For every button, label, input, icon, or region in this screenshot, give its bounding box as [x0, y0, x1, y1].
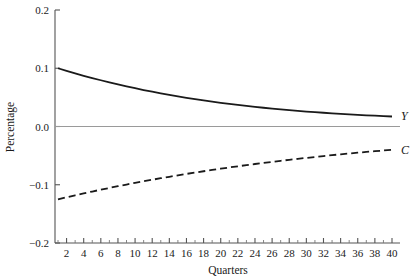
- x-tick-label: 22: [232, 247, 243, 259]
- x-tick-label: 26: [267, 247, 279, 259]
- x-tick-label: 16: [181, 247, 193, 259]
- x-tick-label: 4: [81, 247, 87, 259]
- series-group: [58, 68, 392, 199]
- y-tick-label: −0.2: [29, 237, 49, 249]
- x-tick-label: 30: [301, 247, 313, 259]
- x-tick-label: 40: [387, 247, 399, 259]
- x-axis: [55, 238, 400, 243]
- x-tick-label: 34: [335, 247, 347, 259]
- x-tick-label: 28: [284, 247, 296, 259]
- y-tick-labels: 0.20.10.0−0.1−0.2: [29, 4, 49, 249]
- y-tick-label: 0.1: [35, 62, 49, 74]
- x-tick-label: 20: [215, 247, 227, 259]
- x-tick-label: 24: [249, 247, 261, 259]
- x-axis-title: Quarters: [208, 264, 248, 276]
- series-inline-labels: YC: [401, 109, 410, 156]
- chart-figure: 0.20.10.0−0.1−0.2 2468101214161820222426…: [0, 0, 419, 279]
- chart-canvas: 0.20.10.0−0.1−0.2 2468101214161820222426…: [0, 0, 419, 279]
- series-label-y: Y: [401, 109, 409, 123]
- y-tick-label: 0.0: [35, 121, 49, 133]
- y-tick-label: −0.1: [29, 179, 49, 191]
- series-line-c: [58, 150, 392, 200]
- y-axis-title: Percentage: [4, 102, 17, 152]
- series-label-c: C: [401, 143, 410, 157]
- x-tick-label: 12: [147, 247, 158, 259]
- x-tick-label: 2: [64, 247, 70, 259]
- x-tick-label: 8: [115, 247, 121, 259]
- x-tick-label: 38: [369, 247, 381, 259]
- x-tick-label: 14: [164, 247, 176, 259]
- x-tick-label: 18: [198, 247, 210, 259]
- y-tick-label: 0.2: [35, 4, 49, 16]
- x-tick-label: 10: [130, 247, 142, 259]
- series-line-y: [58, 68, 392, 116]
- x-tick-label: 6: [98, 247, 104, 259]
- x-tick-label: 32: [318, 247, 329, 259]
- x-tick-label: 36: [352, 247, 364, 259]
- x-tick-labels: 246810121416182022242628303234363840: [64, 247, 398, 259]
